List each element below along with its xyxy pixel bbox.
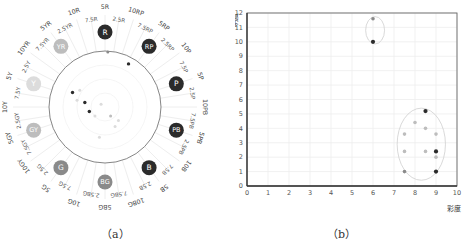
hue-label-inner: 2.5P xyxy=(188,87,196,101)
hue-label-outer: 10RP xyxy=(127,5,145,17)
hue-label-inner: 2.5B xyxy=(138,180,152,191)
scatter-point xyxy=(371,17,375,21)
x-tick-label: 8 xyxy=(413,189,417,197)
scatter-point xyxy=(423,109,427,113)
y-tick-label: 6 xyxy=(239,96,243,104)
x-tick-label: 4 xyxy=(329,189,333,197)
wheel-data-point xyxy=(71,91,74,94)
scatter-point xyxy=(403,150,407,154)
x-tick-label: 3 xyxy=(308,189,312,197)
y-tick-label: 0 xyxy=(239,182,243,190)
svg-text:GY: GY xyxy=(29,126,38,134)
hue-badge-y: Y xyxy=(26,76,41,91)
x-tick-label: 1 xyxy=(266,189,270,197)
x-axis-label: 彩度 xyxy=(447,204,461,213)
hue-label-inner: 7.5BG xyxy=(110,190,128,199)
svg-text:YR: YR xyxy=(56,43,66,51)
spoke-line xyxy=(122,20,133,54)
y-tick-label: 1 xyxy=(239,168,243,176)
x-tick-label: 9 xyxy=(434,189,438,197)
svg-text:BG: BG xyxy=(100,178,109,186)
x-tick-label: 6 xyxy=(371,189,375,197)
hue-badge-yr: YR xyxy=(53,39,68,54)
wheel-data-point xyxy=(88,110,91,113)
svg-text:RP: RP xyxy=(145,43,154,51)
hue-label-inner: 7.5P xyxy=(178,60,189,74)
hue-label-outer: 5RP xyxy=(157,19,171,32)
spoke-line xyxy=(77,20,88,54)
caption-b: （b） xyxy=(327,225,356,241)
wheel-data-point xyxy=(100,103,103,106)
scatter-point xyxy=(434,155,438,159)
hue-wheel-chart: 5R10RP5RP10P5P10PB5PB10B5B10BG5BG10G5G10… xyxy=(0,0,235,244)
svg-text:P: P xyxy=(174,79,179,88)
guide-ring xyxy=(63,65,147,149)
scatter-point xyxy=(424,127,428,131)
hue-label-outer: 10YR xyxy=(16,39,32,57)
hue-label-outer: 5GY xyxy=(4,131,15,145)
wheel-data-point xyxy=(98,136,101,139)
hue-label-inner: 2.5YR xyxy=(56,22,73,35)
hue-label-outer: 5G xyxy=(40,183,51,194)
scatter-point xyxy=(434,132,438,136)
hue-badge-b: B xyxy=(142,160,157,175)
scatter-point xyxy=(434,149,438,153)
caption-a: （a） xyxy=(101,225,130,241)
svg-text:G: G xyxy=(58,163,64,172)
hue-label-inner: 2.5GY xyxy=(13,112,22,130)
hue-label-outer: 5B xyxy=(159,183,170,194)
y-tick-label: 9 xyxy=(239,52,243,60)
guide-ring xyxy=(77,79,133,135)
wheel-data-point xyxy=(93,114,96,117)
value-chroma-scatter: 0123456789100123456789101112彩度明度 xyxy=(235,0,470,244)
wheel-data-point xyxy=(106,51,109,54)
hue-badge-p: P xyxy=(169,76,184,91)
hue-badge-gy: GY xyxy=(26,123,41,138)
cluster-ellipse xyxy=(366,17,385,44)
hue-label-outer: 10P xyxy=(180,41,193,55)
hue-label-outer: 10Y xyxy=(1,101,8,113)
y-tick-label: 8 xyxy=(239,67,243,75)
x-tick-label: 5 xyxy=(350,189,354,197)
hue-badge-g: G xyxy=(53,160,68,175)
y-tick-label: 4 xyxy=(239,125,243,133)
hue-label-outer: 10GY xyxy=(16,157,31,175)
hue-badge-pb: PB xyxy=(169,123,184,138)
hue-label-outer: 5PB xyxy=(196,131,206,145)
y-axis-label: 明度 xyxy=(235,13,239,27)
scatter-point xyxy=(413,121,417,125)
hue-label-outer: 10R xyxy=(67,6,82,17)
hue-label-inner: 2.5BG xyxy=(82,190,100,199)
wheel-data-point xyxy=(127,62,130,65)
wheel-data-point xyxy=(114,125,117,128)
svg-text:PB: PB xyxy=(172,126,180,134)
scatter-point xyxy=(403,132,407,136)
scatter-point xyxy=(403,170,407,174)
hue-label-outer: 5YR xyxy=(39,19,54,32)
hue-label-inner: 7.5R xyxy=(84,16,98,24)
scatter-point xyxy=(371,40,375,44)
wheel-circle xyxy=(49,51,161,163)
wheel-data-point xyxy=(83,101,86,104)
hue-label-inner: 2.5Y xyxy=(21,59,32,73)
hue-label-outer: 5BG xyxy=(98,204,111,211)
cluster-ellipse xyxy=(397,108,445,180)
hue-label-outer: 10BG xyxy=(127,197,146,209)
hue-label-inner: 7.5PB xyxy=(188,112,196,129)
x-tick-label: 0 xyxy=(245,189,249,197)
x-tick-label: 10 xyxy=(453,189,461,197)
y-tick-label: 7 xyxy=(239,81,243,89)
hue-wheel-panel: 5R10RP5RP10P5P10PB5PB10B5B10BG5BG10G5G10… xyxy=(0,0,235,244)
wheel-data-point xyxy=(109,114,112,117)
wheel-data-point xyxy=(76,99,79,102)
wheel-data-point xyxy=(78,89,81,92)
value-chroma-panel: 0123456789100123456789101112彩度明度 xyxy=(235,0,470,244)
hue-badge-rp: RP xyxy=(142,39,157,54)
y-tick-label: 3 xyxy=(239,139,243,147)
hue-badge-r: R xyxy=(98,25,113,40)
scatter-point xyxy=(424,150,428,154)
scatter-point xyxy=(434,169,438,173)
hue-label-inner: 7.5GY xyxy=(20,138,33,156)
spoke-line xyxy=(77,160,88,194)
y-tick-label: 5 xyxy=(239,110,243,118)
